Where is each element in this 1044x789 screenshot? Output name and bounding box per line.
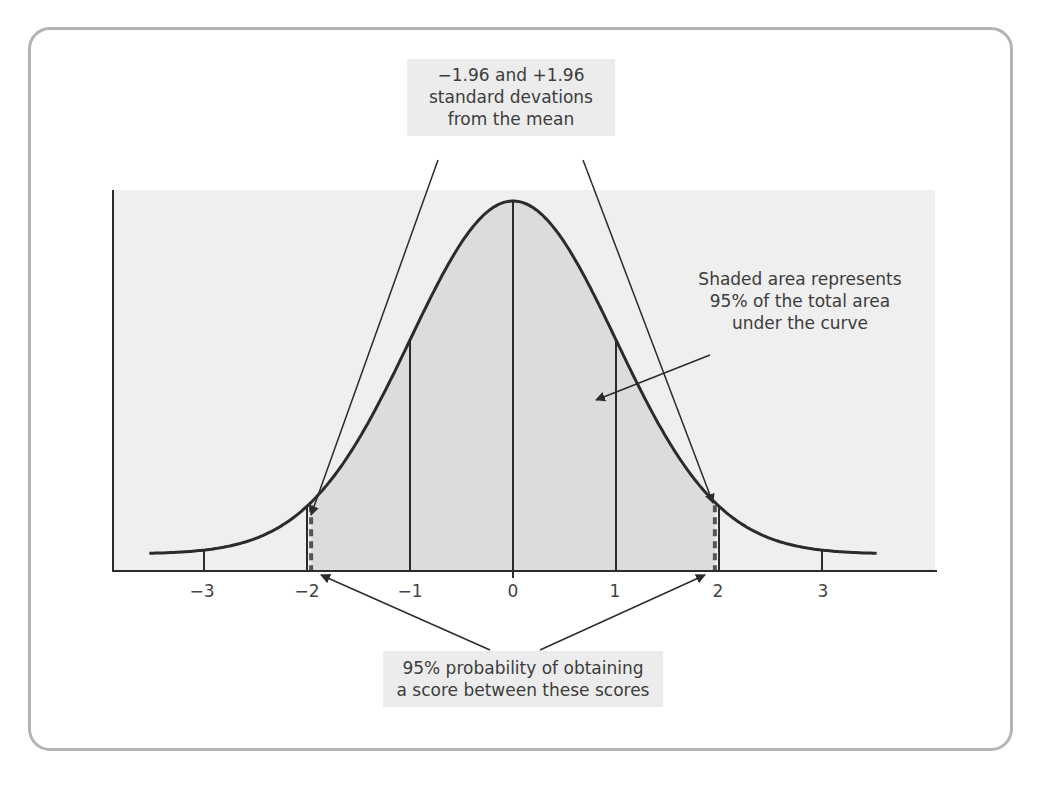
annotation-line: from the mean <box>407 108 615 130</box>
annotation-line: under the curve <box>690 312 910 334</box>
x-tick-label: −2 <box>292 581 322 601</box>
x-tick-label: −1 <box>395 581 425 601</box>
annotation-line: 95% of the total area <box>690 290 910 312</box>
annotation-line: standard devations <box>407 86 615 108</box>
x-tick-label: 0 <box>498 581 528 601</box>
x-tick-label: 1 <box>600 581 630 601</box>
annotation-probability: 95% probability of obtaining a score bet… <box>383 651 663 707</box>
annotation-sd-196: −1.96 and +1.96 standard devations from … <box>407 59 615 136</box>
annotation-line: a score between these scores <box>383 679 663 701</box>
annotation-shaded-area: Shaded area represents 95% of the total … <box>690 268 910 334</box>
annotation-line: Shaded area represents <box>690 268 910 290</box>
annotation-line: −1.96 and +1.96 <box>407 64 615 86</box>
annotation-line: 95% probability of obtaining <box>383 657 663 679</box>
x-tick-label: 2 <box>703 581 733 601</box>
x-tick-label: −3 <box>187 581 217 601</box>
x-tick-label: 3 <box>808 581 838 601</box>
